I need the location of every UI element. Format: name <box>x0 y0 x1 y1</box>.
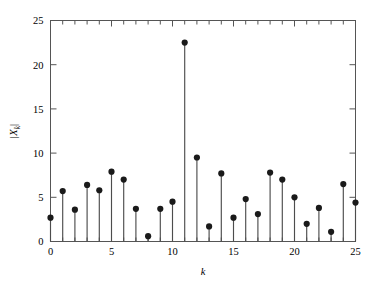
y-axis-tick-labels: 0510152025 <box>33 15 44 247</box>
stem-point <box>206 223 212 241</box>
x-axis-title: k <box>201 266 206 277</box>
stem-point <box>133 206 139 242</box>
x-tick-label: 20 <box>289 246 300 257</box>
stem-point <box>169 199 175 242</box>
stem-point <box>72 207 78 242</box>
stem-marker <box>316 205 322 211</box>
stem-point <box>316 205 322 242</box>
stem-marker <box>304 221 310 227</box>
stem-point <box>328 229 334 242</box>
stem-marker <box>218 170 224 176</box>
stem-marker <box>194 154 200 160</box>
stem-point <box>47 215 53 242</box>
stem-marker <box>182 40 188 46</box>
stem-point <box>182 40 188 242</box>
y-axis-title: |Xk| <box>7 124 22 138</box>
stem-marker <box>291 194 297 200</box>
stem-point <box>279 177 285 242</box>
stem-marker <box>96 187 102 193</box>
stem-marker <box>145 233 151 239</box>
stem-point <box>243 196 249 242</box>
plot-frame <box>51 21 356 242</box>
stem-plot-figure: 0510152025 0510152025 k|Xk| <box>0 0 381 285</box>
y-tick-label: 20 <box>33 60 44 71</box>
y-tick-label: 10 <box>33 148 44 159</box>
axes-frame <box>51 21 356 242</box>
stem-marker <box>157 206 163 212</box>
stem-marker <box>84 182 90 188</box>
stem-marker <box>279 177 285 183</box>
stem-series <box>47 40 358 242</box>
stem-marker <box>121 177 127 183</box>
stem-marker <box>340 181 346 187</box>
stem-marker <box>47 215 53 221</box>
stem-point <box>304 221 310 242</box>
stem-point <box>340 181 346 242</box>
stem-marker <box>108 169 114 175</box>
stem-point <box>218 170 224 241</box>
stem-marker <box>72 207 78 213</box>
stem-marker <box>255 211 261 217</box>
stem-point <box>121 177 127 242</box>
x-axis-tick-labels: 0510152025 <box>48 246 361 257</box>
stem-point <box>267 169 273 241</box>
stem-marker <box>169 199 175 205</box>
y-tick-label: 25 <box>33 15 44 26</box>
x-tick-label: 15 <box>228 246 239 257</box>
stem-point <box>157 206 163 242</box>
stem-point <box>194 154 200 241</box>
x-tick-label: 0 <box>48 246 53 257</box>
y-tick-label: 15 <box>33 104 44 115</box>
x-axis-ticks <box>51 21 356 242</box>
x-tick-label: 10 <box>167 246 178 257</box>
stem-marker <box>206 223 212 229</box>
y-tick-label: 0 <box>38 236 43 247</box>
x-tick-label: 25 <box>350 246 361 257</box>
stem-marker <box>352 200 358 206</box>
stem-marker <box>60 188 66 194</box>
y-tick-label: 5 <box>38 192 43 203</box>
stem-point <box>291 194 297 241</box>
stem-marker <box>230 215 236 221</box>
stem-point <box>145 233 151 241</box>
stem-point <box>352 200 358 242</box>
stem-marker <box>328 229 334 235</box>
stem-marker <box>133 206 139 212</box>
x-tick-label: 5 <box>109 246 114 257</box>
stem-marker <box>267 169 273 175</box>
stem-point <box>84 182 90 242</box>
stem-point <box>60 188 66 241</box>
stem-point <box>96 187 102 241</box>
stem-point <box>108 169 114 242</box>
stem-point <box>230 215 236 242</box>
y-axis-ticks <box>51 21 356 242</box>
stem-point <box>255 211 261 242</box>
plot-canvas: 0510152025 0510152025 k|Xk| <box>0 0 381 285</box>
stem-marker <box>243 196 249 202</box>
